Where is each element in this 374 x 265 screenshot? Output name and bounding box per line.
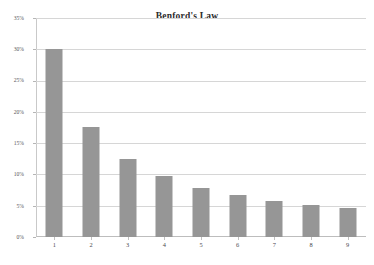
bar[interactable] [192, 188, 209, 237]
plot-area: 35%30%25%20%15%10%5%0% 123456789 [36, 18, 366, 237]
y-tick-label: 0% [0, 234, 24, 240]
bar-slot [293, 18, 330, 237]
y-tick-label: 30% [0, 46, 24, 52]
bar[interactable] [119, 159, 136, 237]
x-tick-label: 1 [39, 241, 69, 248]
x-tick-mark [164, 237, 165, 240]
x-tick-label: 4 [149, 241, 179, 248]
x-tick-label: 9 [333, 241, 363, 248]
bar-slot [329, 18, 366, 237]
y-tick-label: 10% [0, 171, 24, 177]
x-tick-mark [201, 237, 202, 240]
y-tick-mark [33, 237, 36, 238]
x-tick-label: 3 [113, 241, 143, 248]
bar-slot [183, 18, 220, 237]
bar[interactable] [46, 49, 63, 237]
x-tick-mark [128, 237, 129, 240]
bar[interactable] [266, 201, 283, 237]
bar-slot [219, 18, 256, 237]
y-tick-label: 15% [0, 140, 24, 146]
x-tick-mark [274, 237, 275, 240]
x-tick-mark [91, 237, 92, 240]
bar[interactable] [156, 176, 173, 237]
x-tick-mark [348, 237, 349, 240]
bar[interactable] [339, 208, 356, 237]
bars-layer [36, 18, 366, 237]
x-tick-label: 5 [186, 241, 216, 248]
x-tick-label: 6 [223, 241, 253, 248]
bar-slot [36, 18, 73, 237]
y-tick-label: 20% [0, 109, 24, 115]
benfords-law-chart: Benford's Law 35%30%25%20%15%10%5%0% 123… [0, 0, 374, 265]
x-tick-mark [54, 237, 55, 240]
bar-slot [73, 18, 110, 237]
x-tick-label: 8 [296, 241, 326, 248]
y-tick-label: 5% [0, 203, 24, 209]
x-tick-label: 7 [259, 241, 289, 248]
y-tick-label: 35% [0, 15, 24, 21]
bar-slot [109, 18, 146, 237]
bar[interactable] [229, 195, 246, 237]
bar[interactable] [82, 127, 99, 237]
x-tick-mark [311, 237, 312, 240]
x-tick-mark [238, 237, 239, 240]
bar-slot [256, 18, 293, 237]
x-tick-label: 2 [76, 241, 106, 248]
bar[interactable] [302, 205, 319, 237]
bar-slot [146, 18, 183, 237]
y-tick-label: 25% [0, 77, 24, 83]
